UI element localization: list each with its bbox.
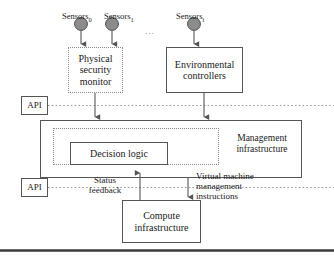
vm-management-instructions-label: Virtual machine management instructions: [196, 172, 274, 202]
decision-logic-label: Decision logic: [90, 148, 148, 159]
environmental-controllers-box: Environmental controllers: [166, 47, 243, 93]
api-box-upper: API: [21, 96, 48, 115]
compute-infrastructure-box: Compute infrastructure: [122, 200, 201, 243]
api-lower-label: API: [27, 182, 42, 192]
api-box-lower: API: [21, 178, 48, 197]
sensors-ellipsis: ...: [145, 27, 155, 37]
status-feedback-label: Status feedback: [76, 176, 134, 196]
architecture-diagram: Sensors0 Sensors1 Sensorsi ... Physical …: [0, 0, 334, 256]
api-upper-label: API: [27, 100, 42, 110]
physical-security-monitor-box: Physical security monitor: [68, 47, 123, 93]
sensor-0-subscript: 0: [88, 16, 91, 23]
sensor-0-label: Sensors0: [62, 11, 92, 23]
sensor-i-label: Sensorsi: [176, 11, 204, 23]
sensor-1-label: Sensors1: [104, 11, 134, 23]
sensor-i-subscript: i: [202, 16, 204, 23]
physical-security-monitor-label: Physical security monitor: [79, 53, 113, 87]
environmental-controllers-label: Environmental controllers: [175, 59, 234, 81]
management-infrastructure-label: Management infrastructure: [226, 133, 298, 155]
compute-infrastructure-label: Compute infrastructure: [135, 210, 189, 232]
sensor-1-subscript: 1: [130, 16, 133, 23]
decision-logic-box: Decision logic: [70, 142, 168, 165]
